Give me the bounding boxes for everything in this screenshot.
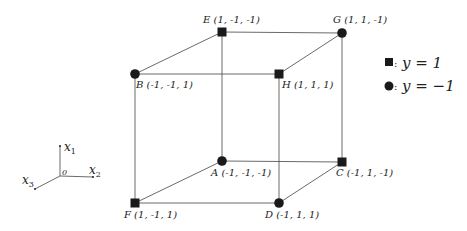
label-f: F (1, -1, 1) [123, 209, 177, 220]
label-d: D (-1, 1, 1) [264, 209, 319, 220]
node-e-square-icon [218, 28, 227, 37]
legend-sep-1: : [394, 58, 397, 69]
cube-diagram: E (1, -1, -1) G (1, 1, -1) B (-1, -1, 1)… [0, 0, 467, 231]
axis-label-x1: x1 [64, 140, 76, 156]
legend-label-y1: y = 1 [401, 54, 442, 72]
legend-circle-icon [385, 82, 394, 91]
edge-a-c [222, 161, 342, 162]
legend-sep-2: : [394, 81, 397, 92]
axis-label-x2: x2 [89, 163, 101, 179]
label-a: A (-1, -1, -1) [210, 167, 271, 178]
node-b-circle-icon [130, 69, 140, 79]
node-g-circle-icon [337, 28, 347, 38]
axis-origin-label: 0 [62, 168, 67, 177]
edge-a-f [135, 161, 222, 203]
legend: : y = 1 : y = −1 [385, 54, 455, 95]
label-h: H (1, 1, 1) [281, 79, 334, 90]
edge-e-g [222, 32, 342, 33]
legend-square-icon [385, 58, 393, 66]
edge-c-d [279, 162, 342, 203]
node-d-circle-icon [274, 198, 284, 208]
label-b: B (-1, -1, 1) [135, 79, 193, 90]
axis-label-x3: x3 [22, 173, 34, 189]
axis-x3 [35, 176, 60, 189]
node-c-square-icon [338, 158, 347, 167]
node-f-square-icon [131, 199, 140, 208]
axis-x3-tip-icon [34, 188, 36, 190]
edge-e-b [135, 32, 222, 74]
legend-label-yneg1: y = −1 [401, 77, 455, 95]
label-e: E (1, -1, -1) [202, 14, 260, 25]
axis-x1-tip-icon [59, 145, 61, 147]
edge-g-h [279, 33, 342, 74]
node-a-circle-icon [217, 156, 227, 166]
node-h-square-icon [275, 70, 284, 79]
label-g: G (1, 1, -1) [333, 14, 387, 25]
label-c: C (-1, 1, -1) [336, 167, 393, 178]
coordinate-axes: x1 x2 x3 0 [22, 140, 101, 190]
vertex-markers [130, 28, 347, 208]
